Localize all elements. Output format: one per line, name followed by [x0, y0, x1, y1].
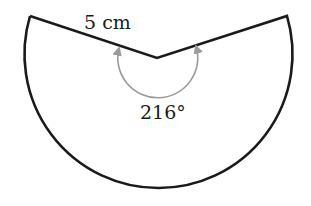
diagram-canvas: 5 cm 216° [0, 0, 311, 206]
angle-arc [118, 46, 198, 98]
radius-label: 5 cm [84, 11, 131, 33]
angle-label: 216° [140, 101, 186, 123]
sector-diagram: 5 cm 216° [0, 0, 311, 206]
